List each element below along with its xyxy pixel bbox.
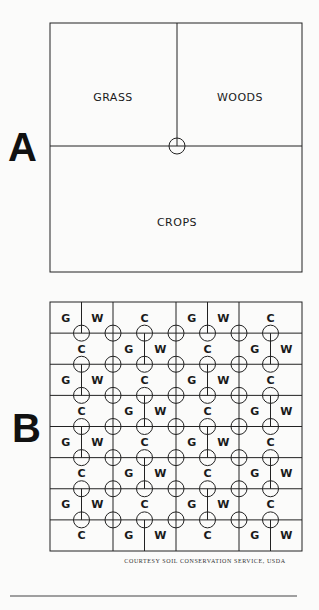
field-label-w: W: [280, 529, 292, 542]
field-label-g: G: [187, 374, 196, 387]
field-label-c: C: [140, 312, 148, 325]
field-label-g: G: [61, 312, 70, 325]
field-label-c: C: [266, 374, 274, 387]
field-label-crops: CROPS: [157, 216, 197, 229]
field-label-c: C: [140, 498, 148, 511]
field-label-c: C: [266, 436, 274, 449]
field-label-c: C: [203, 405, 211, 418]
field-label-c: C: [266, 312, 274, 325]
field-label-g: G: [250, 405, 259, 418]
field-label-w: W: [91, 498, 103, 511]
field-label-g: G: [124, 529, 133, 542]
diagram-a-border: [50, 23, 302, 272]
field-label-c: C: [266, 498, 274, 511]
field-label-w: W: [280, 343, 292, 356]
field-label-g: G: [124, 467, 133, 480]
diagram-a-letter: A: [8, 125, 37, 169]
field-label-g: G: [124, 405, 133, 418]
field-label-w: W: [280, 405, 292, 418]
field-label-c: C: [77, 343, 85, 356]
diagram-b: B GWCGWCCGWCGWGWCGWCCGWCGWGWCGWCCGWCGWGW…: [12, 302, 302, 551]
figure: A GRASS WOODS CROPS B GWCGWCCGWCGWGWCGWC…: [0, 0, 319, 610]
diagram-b-letter: B: [12, 406, 41, 450]
field-label-c: C: [77, 467, 85, 480]
field-label-w: W: [217, 436, 229, 449]
field-label-c: C: [140, 436, 148, 449]
field-label-w: W: [91, 374, 103, 387]
field-label-w: W: [217, 498, 229, 511]
field-label-g: G: [187, 436, 196, 449]
field-label-w: W: [217, 312, 229, 325]
field-label-c: C: [77, 529, 85, 542]
field-label-w: W: [217, 374, 229, 387]
field-label-g: G: [61, 436, 70, 449]
field-label-c: C: [77, 405, 85, 418]
field-arrangement-diagram: A GRASS WOODS CROPS B GWCGWCCGWCGWGWCGWC…: [0, 0, 319, 610]
field-label-w: W: [91, 312, 103, 325]
field-label-g: G: [124, 343, 133, 356]
field-label-g: G: [187, 312, 196, 325]
field-label-w: W: [91, 436, 103, 449]
field-label-w: W: [280, 467, 292, 480]
field-label-c: C: [203, 343, 211, 356]
field-label-g: G: [61, 374, 70, 387]
field-label-g: G: [61, 498, 70, 511]
field-label-c: C: [140, 374, 148, 387]
field-label-w: W: [154, 529, 166, 542]
field-label-c: C: [203, 467, 211, 480]
credit-caption: COURTESY SOIL CONSERVATION SERVICE, USDA: [124, 558, 285, 564]
diagram-a: A GRASS WOODS CROPS: [8, 23, 302, 272]
field-label-g: G: [250, 343, 259, 356]
field-label-c: C: [203, 529, 211, 542]
field-label-woods: WOODS: [217, 91, 263, 104]
field-label-w: W: [154, 343, 166, 356]
field-label-w: W: [154, 467, 166, 480]
field-label-g: G: [250, 467, 259, 480]
field-label-grass: GRASS: [93, 91, 133, 104]
field-label-g: G: [187, 498, 196, 511]
field-label-g: G: [250, 529, 259, 542]
diagram-b-grid-lines: [50, 302, 302, 551]
field-label-w: W: [154, 405, 166, 418]
